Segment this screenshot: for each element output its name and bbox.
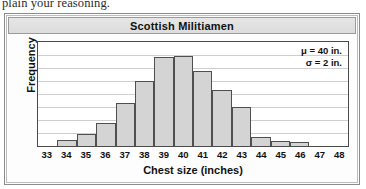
bar-slot xyxy=(154,42,173,146)
x-tick-label: 46 xyxy=(291,149,311,162)
x-axis-ticks: 33343536373839404142434445464748 xyxy=(37,149,349,162)
mean-annotation: μ = 40 in. xyxy=(301,45,342,57)
figure-page: plain your reasoning. Scottish Militiame… xyxy=(0,0,366,189)
x-axis-label: Chest size (inches) xyxy=(37,164,349,176)
histogram-bar xyxy=(174,56,193,146)
figure-title: Scottish Militiamen xyxy=(130,20,234,32)
x-tick-label: 36 xyxy=(96,149,116,162)
x-tick-label: 43 xyxy=(232,149,252,162)
x-tick-label: 47 xyxy=(310,149,330,162)
x-tick-label: 42 xyxy=(213,149,233,162)
histogram-bar xyxy=(193,71,212,146)
bar-slot xyxy=(212,42,231,146)
bar-slot xyxy=(232,42,251,146)
x-tick-label: 45 xyxy=(271,149,291,162)
x-tick-label: 37 xyxy=(115,149,135,162)
histogram-bar xyxy=(116,103,135,146)
bar-slot xyxy=(38,42,57,146)
x-tick-label: 38 xyxy=(135,149,155,162)
x-tick-label: 33 xyxy=(37,149,57,162)
bar-slot xyxy=(251,42,270,146)
figure-title-bar: Scottish Militiamen xyxy=(8,17,356,34)
x-tick-label: 39 xyxy=(154,149,174,162)
bar-slot xyxy=(135,42,154,146)
x-tick-label: 44 xyxy=(252,149,272,162)
histogram-bar xyxy=(154,57,173,146)
sd-annotation: σ = 2 in. xyxy=(301,57,342,69)
bar-slot xyxy=(271,42,290,146)
histogram-bar xyxy=(212,90,231,146)
x-tick-label: 40 xyxy=(174,149,194,162)
x-tick-label: 48 xyxy=(330,149,350,162)
bar-slot xyxy=(174,42,193,146)
histogram-bar xyxy=(271,141,290,146)
surrounding-body-text: plain your reasoning. xyxy=(2,0,110,11)
bar-slot xyxy=(77,42,96,146)
chart-area: Frequency μ = 40 in. σ = 2 in. 333435363… xyxy=(8,36,356,181)
bar-slot xyxy=(116,42,135,146)
stats-annotation: μ = 40 in. σ = 2 in. xyxy=(301,45,342,69)
bar-slot xyxy=(193,42,212,146)
figure-frame: Scottish Militiamen Frequency μ = 40 in.… xyxy=(4,13,360,185)
gridline xyxy=(38,146,348,147)
histogram-bar xyxy=(57,140,76,146)
histogram-bar xyxy=(251,137,270,146)
x-tick-label: 35 xyxy=(76,149,96,162)
bar-slot xyxy=(57,42,76,146)
x-tick-label: 34 xyxy=(57,149,77,162)
histogram-bar xyxy=(135,81,154,146)
histogram-bar xyxy=(290,142,309,146)
bar-slot xyxy=(96,42,115,146)
histogram-bar xyxy=(96,123,115,146)
histogram-bar xyxy=(77,134,96,146)
histogram-bar xyxy=(232,107,251,146)
plot-area: μ = 40 in. σ = 2 in. xyxy=(37,41,349,147)
x-tick-label: 41 xyxy=(193,149,213,162)
